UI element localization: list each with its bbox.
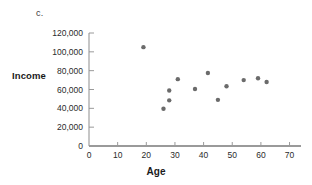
- data-point: [216, 98, 220, 102]
- data-point: [167, 98, 171, 102]
- y-tick-label: 60,000: [57, 85, 83, 95]
- x-tick-label: 30: [170, 150, 180, 160]
- data-point: [264, 80, 268, 84]
- data-point: [256, 76, 260, 80]
- y-tick-label: 80,000: [57, 66, 83, 76]
- tick-mark-group: [89, 33, 290, 145]
- x-tick-label: 70: [285, 150, 295, 160]
- x-tick-label: 10: [113, 150, 123, 160]
- y-tick-label: 40,000: [57, 103, 83, 113]
- plot-area: 020,00040,00060,00080,000100,000120,000 …: [0, 0, 312, 185]
- scatter-plot-figure: c. Income 020,00040,00060,00080,000100,0…: [0, 0, 312, 185]
- y-tick-label: 120,000: [52, 28, 83, 38]
- data-point: [167, 88, 171, 92]
- y-tick-label: 20,000: [57, 122, 83, 132]
- data-point: [176, 77, 180, 81]
- data-point: [206, 71, 210, 75]
- data-point: [224, 84, 228, 88]
- y-tick-label: 0: [78, 141, 83, 151]
- data-point: [193, 87, 197, 91]
- data-point: [141, 45, 145, 49]
- y-tick-label-group: 020,00040,00060,00080,000100,000120,000: [52, 28, 83, 151]
- x-axis-title: Age: [0, 166, 312, 177]
- data-point-group: [141, 45, 269, 111]
- x-tick-label: 20: [142, 150, 152, 160]
- y-tick-label: 100,000: [52, 47, 83, 57]
- x-tick-label: 50: [228, 150, 238, 160]
- data-point: [242, 78, 246, 82]
- data-point: [161, 107, 165, 111]
- x-tick-label-group: 010203040506070: [87, 150, 295, 160]
- x-tick-label: 0: [87, 150, 92, 160]
- x-tick-label: 40: [199, 150, 209, 160]
- x-tick-label: 60: [256, 150, 266, 160]
